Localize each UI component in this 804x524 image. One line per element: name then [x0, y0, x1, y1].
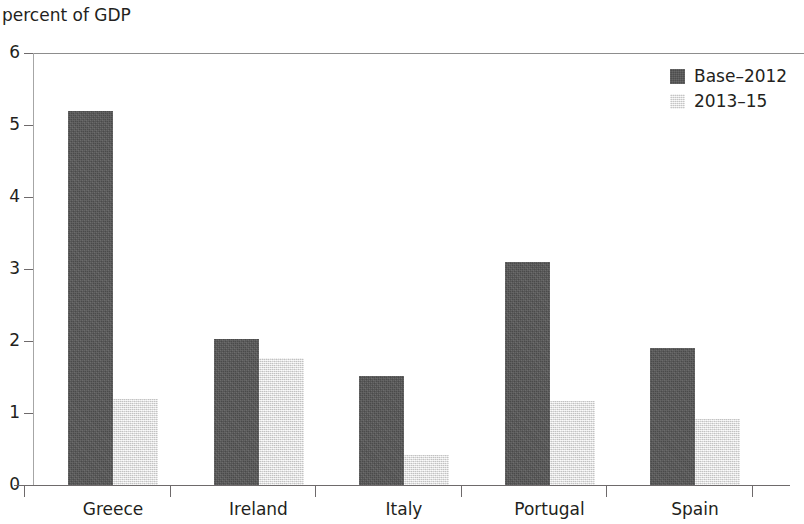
x-axis-label-portugal: Portugal — [480, 498, 620, 520]
gridline-2 — [33, 341, 804, 342]
x-tick-mark-4 — [606, 486, 607, 497]
x-tick-mark-edge-1 — [752, 486, 753, 497]
chart-legend: Base–20122013–15 — [670, 64, 787, 114]
legend-label-1: Base–2012 — [694, 68, 787, 85]
x-axis-baseline — [14, 485, 790, 486]
bar-italy-series1 — [359, 376, 404, 485]
y-tick-label-5: 5 — [0, 116, 20, 133]
bar-spain-series2 — [695, 419, 740, 485]
x-axis-label-italy: Italy — [334, 498, 474, 520]
gridline-4 — [33, 197, 804, 198]
bar-portugal-series1 — [505, 262, 550, 485]
y-tick-label-6: 6 — [0, 44, 20, 61]
y-tick-label-4: 4 — [0, 188, 20, 205]
bar-portugal-series2 — [550, 401, 595, 485]
x-axis-label-greece: Greece — [43, 498, 183, 520]
x-tick-mark-1 — [170, 486, 171, 497]
gridline-6 — [33, 53, 804, 54]
x-axis-label-ireland: Ireland — [189, 498, 329, 520]
legend-label-2: 2013–15 — [694, 93, 767, 110]
legend-swatch-icon-2 — [670, 94, 685, 109]
bar-ireland-series2 — [259, 358, 304, 485]
legend-item-1[interactable]: Base–2012 — [670, 64, 787, 89]
x-axis-label-spain: Spain — [625, 498, 765, 520]
x-tick-mark-3 — [461, 486, 462, 497]
bar-greece-series2 — [113, 399, 158, 485]
bar-greece-series1 — [68, 111, 113, 485]
gridline-5 — [33, 125, 804, 126]
x-tick-mark-2 — [315, 486, 316, 497]
legend-swatch-icon-1 — [670, 69, 685, 84]
y-tick-label-3: 3 — [0, 260, 20, 277]
y-tick-label-2: 2 — [0, 332, 20, 349]
bar-italy-series2 — [404, 455, 449, 485]
gridline-3 — [33, 269, 804, 270]
bar-ireland-series1 — [214, 339, 259, 485]
y-tick-label-1: 1 — [0, 404, 20, 421]
bar-spain-series1 — [650, 348, 695, 485]
legend-item-2[interactable]: 2013–15 — [670, 89, 787, 114]
x-tick-mark-edge-0 — [24, 486, 25, 497]
y-axis-line — [33, 53, 34, 486]
